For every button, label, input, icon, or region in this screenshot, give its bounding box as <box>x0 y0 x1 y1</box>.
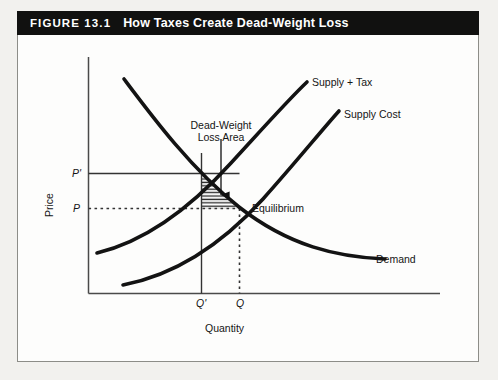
x-axis-title: Quantity <box>205 322 244 334</box>
x-tick-label-q-prime: Q' <box>196 297 206 309</box>
dwl-annotation-line-1: Dead-Weight <box>167 119 275 131</box>
curve-label-demand: Demand <box>376 253 416 265</box>
dead-weight-loss-annotation: Dead-Weight Loss Area <box>167 119 275 144</box>
figure-title: How Taxes Create Dead-Weight Loss <box>123 16 349 30</box>
x-tick-label-q: Q <box>236 297 244 309</box>
y-axis-title: Price <box>43 193 55 217</box>
figure-root: FIGURE 13.1 How Taxes Create Dead-Weight… <box>0 0 498 380</box>
equilibrium-label: Equilibrium <box>252 202 304 214</box>
y-tick-label-p-prime: P' <box>72 167 81 179</box>
figure-title-bar: FIGURE 13.1 How Taxes Create Dead-Weight… <box>17 11 479 35</box>
chart-plot-area: Supply + Tax Supply Cost Demand Equilibr… <box>17 35 479 362</box>
y-tick-label-p: P <box>73 202 80 214</box>
dwl-annotation-line-2: Loss Area <box>167 131 275 143</box>
curve-label-supply-plus-tax: Supply + Tax <box>312 76 372 88</box>
curve-label-supply-cost: Supply Cost <box>344 108 401 120</box>
chart-svg <box>17 35 479 362</box>
figure-number: FIGURE 13.1 <box>30 17 111 29</box>
curve-demand <box>124 79 385 259</box>
